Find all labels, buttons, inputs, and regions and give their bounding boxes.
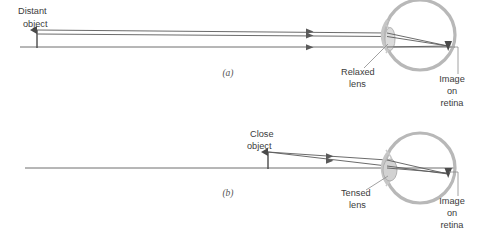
tensed-lens-label-line1: Tensed [341, 188, 371, 198]
distant-object-label-line2: object [23, 19, 48, 29]
image-retina-label-b-line2: on [447, 208, 457, 218]
image-retina-label-a-line1: Image [439, 74, 465, 84]
panel-b-group: Close object (b) Tensed lens Image on re… [25, 129, 465, 230]
relaxed-lens-label-line2: lens [349, 79, 366, 89]
image-retina-label-a-line2: on [447, 86, 457, 96]
panel-a-letter: (a) [222, 68, 233, 79]
image-retina-label-b-line1: Image [439, 196, 465, 206]
tensed-lens-label-line2: lens [349, 200, 366, 210]
ray-a-arrowhead-2 [306, 33, 314, 39]
panel-b-letter: (b) [222, 188, 233, 199]
relaxed-lens-leader [364, 44, 388, 68]
ray-b-arrowhead-2 [326, 158, 334, 164]
close-object-label-line1: Close [250, 129, 274, 139]
relaxed-lens-label-line1: Relaxed [341, 67, 375, 77]
ray-a-1 [37, 30, 387, 33]
refracted-ray-a-1 [387, 33, 448, 46]
refracted-ray-a-2 [387, 37, 448, 47]
image-retina-label-a-line3: retina [441, 98, 465, 108]
figure-canvas: Distant object (a) Relaxed lens Image on… [0, 0, 484, 239]
ray-a-2 [37, 34, 387, 37]
close-object-label-line2: object [247, 141, 272, 151]
panel-a-group: Distant object (a) Relaxed lens Image on… [18, 0, 465, 108]
ray-a-arrowhead-3 [306, 44, 314, 50]
eye-optics-figure: Distant object (a) Relaxed lens Image on… [0, 0, 484, 239]
image-retina-label-b-line3: retina [441, 220, 465, 230]
distant-object-label-line1: Distant [18, 6, 47, 16]
